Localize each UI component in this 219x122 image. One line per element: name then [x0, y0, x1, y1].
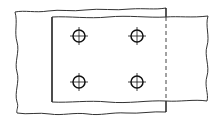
bolt-hole-icon	[128, 73, 146, 91]
lower-plate	[15, 8, 166, 115]
lower-plate-top-break-line	[15, 8, 166, 12]
bolt-hole-icon	[70, 73, 88, 91]
bolt-hole-icon	[70, 27, 88, 45]
lower-plate-bottom-break-line	[17, 112, 166, 115]
upper-plate-top-break-line	[52, 16, 208, 18]
upper-plate-right-break-line	[206, 16, 208, 101]
bolt-hole-icon	[128, 27, 146, 45]
lap-joint-drawing	[0, 0, 219, 122]
bolt-holes	[70, 27, 146, 91]
lower-plate-left-break-line	[15, 12, 18, 113]
upper-plate	[52, 16, 208, 103]
upper-plate-bottom-break-line	[52, 100, 207, 102]
